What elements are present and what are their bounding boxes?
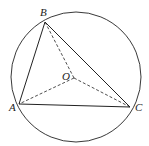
circumcircle <box>11 12 141 142</box>
label-c: C <box>135 101 143 113</box>
segment-ca <box>19 104 130 107</box>
diagram-svg: B A C O <box>0 0 149 146</box>
geometry-diagram: B A C O <box>0 0 149 146</box>
label-o: O <box>62 70 70 82</box>
label-b: B <box>40 6 47 18</box>
segment-bc <box>45 22 130 107</box>
label-a: A <box>8 101 16 113</box>
segment-oc-dashed <box>74 78 130 107</box>
segment-ab <box>19 22 45 104</box>
